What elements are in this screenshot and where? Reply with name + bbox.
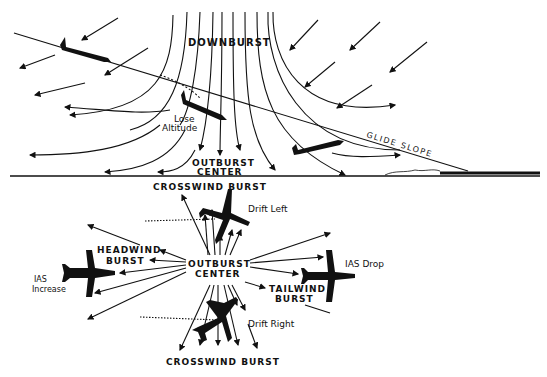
headwind-burst-label-2: BURST [106, 256, 145, 266]
drift-left-path [145, 219, 215, 221]
crosswind-burst-top-label: CROSSWIND BURST [153, 182, 267, 192]
airplane-low-icon [292, 140, 344, 155]
drift-right-label: Drift Right [248, 319, 295, 329]
downburst-label: DOWNBURST [188, 37, 271, 48]
ias-drop-label: IAS Drop [345, 259, 384, 269]
headwind-burst-label-1: HEADWIND [97, 245, 161, 255]
crosswind-burst-bottom-label: CROSSWIND BURST [166, 357, 280, 367]
drift-left-label: Drift Left [248, 204, 288, 214]
ias-increase-label-2: Increase [32, 285, 66, 294]
rain-arrows [20, 18, 427, 108]
outburst-center-plan-label-2: CENTER [195, 269, 241, 279]
airplane-crosswind-right-icon [192, 297, 238, 342]
downburst-diagram: DOWNBURST Lose Altitude OUTBURST CENTER … [0, 0, 547, 377]
outburst-center-label-2: CENTER [197, 167, 243, 177]
outburst-center-plan-label-1: OUTBURST [188, 259, 251, 269]
ias-increase-label-1: IAS [34, 275, 47, 284]
side-view-panel [10, 12, 540, 176]
tailwind-burst-label-1: TAILWIND [269, 284, 326, 294]
tailwind-burst-label-2: BURST [275, 294, 314, 304]
airplane-approach-icon [60, 37, 111, 62]
lose-altitude-label-2: Altitude [162, 123, 198, 133]
